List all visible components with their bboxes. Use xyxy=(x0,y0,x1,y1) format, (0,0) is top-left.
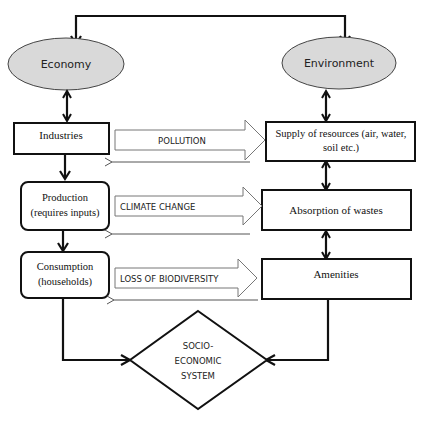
industries-node: Industries xyxy=(14,123,109,154)
economy-label: Economy xyxy=(41,58,92,71)
loss-of-biodiversity-label: LOSS OF BIODIVERSITY xyxy=(120,274,219,284)
pollution-flow-arrow: POLLUTION xyxy=(112,120,265,162)
supply-label-line1: Supply of resources (air, water, xyxy=(276,128,407,140)
production-label-line2: (requires inputs) xyxy=(30,207,100,219)
economy-industries-double-arrow xyxy=(63,91,71,121)
absorption-label: Absorption of wastes xyxy=(289,204,383,216)
economy-node: Economy xyxy=(8,38,124,90)
socio-economic-system-node: SOCIO- ECONOMIC SYSTEM xyxy=(130,311,267,409)
amenities-node: Amenities xyxy=(262,259,411,299)
production-consumption-arrow xyxy=(58,231,68,251)
absorption-amenities-double-arrow xyxy=(322,231,330,259)
socio-label-line3: SYSTEM xyxy=(181,371,215,381)
amenities-socio-connector xyxy=(266,299,328,365)
top-connector-arrow xyxy=(71,16,350,44)
consumption-label-line2: (households) xyxy=(38,276,93,288)
production-node: Production (requires inputs) xyxy=(21,182,109,230)
climate-change-flow-arrow: CLIMATE CHANGE xyxy=(112,187,262,234)
socio-label-line2: ECONOMIC xyxy=(175,356,222,366)
environment-node: Environment xyxy=(282,37,396,89)
industries-label: Industries xyxy=(39,129,82,141)
consumption-node: Consumption (households) xyxy=(21,252,109,298)
supply-absorption-double-arrow xyxy=(322,161,330,190)
pollution-label: POLLUTION xyxy=(158,136,206,146)
flowchart-canvas: Economy Environment Industries xyxy=(0,0,423,424)
supply-node: Supply of resources (air, water, soil et… xyxy=(266,122,415,161)
supply-label-line2: soil etc.) xyxy=(323,142,360,154)
environment-supply-double-arrow xyxy=(322,91,330,121)
climate-change-label: CLIMATE CHANGE xyxy=(120,202,195,212)
environment-label: Environment xyxy=(304,57,375,70)
consumption-label-line1: Consumption xyxy=(37,261,94,272)
socio-label-line1: SOCIO- xyxy=(183,341,214,351)
loss-of-biodiversity-flow-arrow: LOSS OF BIODIVERSITY xyxy=(114,259,258,300)
production-label-line1: Production xyxy=(42,192,89,203)
absorption-node: Absorption of wastes xyxy=(262,190,411,230)
consumption-socio-connector xyxy=(63,298,130,365)
amenities-label: Amenities xyxy=(313,268,358,280)
industries-production-arrow xyxy=(60,154,70,179)
